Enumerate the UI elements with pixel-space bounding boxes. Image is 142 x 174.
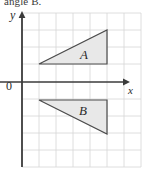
figure-container: angle B.: [0, 0, 142, 174]
y-axis-arrow-icon: [19, 11, 26, 18]
triangle-b-label: B: [79, 104, 87, 117]
coordinate-plot: [0, 0, 142, 174]
origin-label: 0: [6, 80, 12, 92]
x-axis-label: x: [128, 85, 133, 96]
triangle-a-label: A: [80, 48, 88, 61]
grid-lines: [22, 13, 141, 167]
x-axis: [0, 79, 130, 86]
y-axis: [19, 11, 26, 167]
y-axis-label: y: [10, 9, 15, 21]
